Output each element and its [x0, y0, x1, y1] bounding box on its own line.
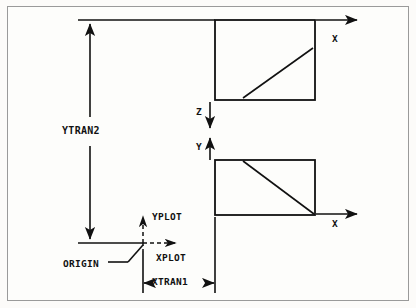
x-axis-top-label: X: [332, 33, 338, 44]
ytran2-label: YTRAN2: [62, 125, 100, 136]
x-axis-bottom-label: X: [332, 218, 338, 229]
z-axis-label: Z: [196, 106, 202, 117]
xplot-label: XPLOT: [156, 252, 186, 263]
bottom-box-diagonal: [243, 161, 314, 214]
top-box-diagonal: [243, 48, 313, 98]
y-axis-label: Y: [196, 141, 202, 152]
xtran1-label: XTRAN1: [152, 276, 188, 287]
bottom-view-box: [215, 160, 315, 215]
origin-label: ORIGIN: [63, 258, 99, 269]
top-view-box: [215, 20, 315, 100]
yplot-label: YPLOT: [152, 211, 182, 222]
diagram-canvas: YTRAN2 ORIGIN XPLOT YPLOT XTRAN1 Z Y X X: [0, 0, 416, 308]
origin-leader-angled: [128, 245, 143, 262]
